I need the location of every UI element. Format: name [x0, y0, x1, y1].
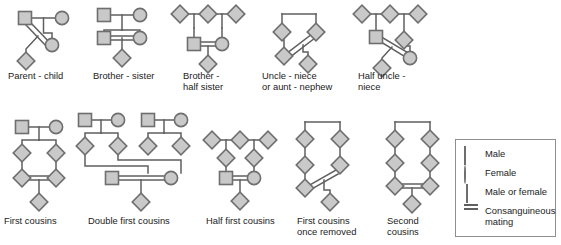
label-first-cousins-once-removed: First cousins once removed [297, 215, 356, 237]
symbol-female [174, 113, 187, 126]
diagram-double-first-cousins [85, 120, 181, 196]
symbol-male [188, 38, 201, 51]
label-half-first-cousins: Half first cousins [206, 215, 275, 226]
symbol-female [133, 31, 146, 44]
symbol-unknown [421, 177, 439, 195]
legend-label: Consanguineous mating [485, 204, 555, 227]
symbol-male [19, 12, 32, 25]
label-brother-half-sister: Brother - half sister [183, 70, 223, 92]
diagram-first-cousins [22, 127, 56, 196]
legend-label: Male or female [485, 185, 547, 197]
symbol-male [220, 172, 233, 185]
symbol-female [55, 11, 68, 24]
symbol-unknown [217, 149, 235, 167]
symbol-unknown [259, 131, 277, 149]
symbol-unknown [296, 130, 314, 148]
symbol-unknown [403, 195, 421, 213]
symbol-unknown [113, 49, 131, 67]
symbol-female [247, 171, 260, 184]
symbol-unknown [76, 137, 94, 155]
symbol-unknown [245, 149, 263, 167]
pedigree-figure: Parent - child Brother - sister Brother … [0, 0, 561, 245]
symbol-unknown [172, 137, 190, 155]
label-double-first-cousins: Double first cousins [88, 215, 170, 226]
symbol-unknown [231, 131, 249, 149]
label-half-uncle-niece: Half uncle - niece [358, 70, 405, 92]
symbol-female [164, 171, 177, 184]
symbol-unknown [296, 156, 314, 174]
symbol-unknown [386, 154, 404, 172]
symbol-unknown [353, 5, 371, 23]
symbol-unknown [321, 193, 339, 211]
symbol-female [133, 8, 146, 21]
legend: Male Female Male or female Consanguineou… [455, 139, 556, 237]
symbol-female [215, 37, 228, 50]
symbol-unknown [273, 23, 291, 41]
legend-item-consanguineous-mating: Consanguineous mating [464, 204, 555, 227]
label-second-cousins: Second cousins [387, 215, 419, 237]
legend-label: Female [485, 166, 516, 178]
legend-label: Male [485, 147, 505, 159]
symbol-female [45, 38, 58, 51]
label-brother-sister: Brother - sister [93, 70, 154, 81]
symbol-male [98, 32, 111, 45]
symbol-unknown [331, 130, 349, 148]
symbol-unknown [132, 193, 150, 211]
symbol-female [403, 51, 416, 64]
symbol-male [142, 114, 155, 127]
symbol-unknown [231, 192, 249, 210]
symbol-unknown [386, 130, 404, 148]
symbol-unknown [203, 131, 221, 149]
symbol-unknown [30, 193, 48, 211]
symbol-unknown [421, 154, 439, 172]
circle-symbol-icon [464, 166, 479, 181]
double-line-symbol-icon [464, 204, 479, 219]
symbol-unknown [171, 5, 189, 23]
symbol-unknown [17, 52, 35, 70]
symbol-unknown [386, 177, 404, 195]
symbol-male [98, 9, 111, 22]
square-symbol-icon [464, 147, 479, 162]
label-uncle-niece: Uncle - niece or aunt - nephew [262, 70, 332, 92]
symbol-unknown [47, 169, 65, 187]
symbol-unknown [307, 23, 325, 41]
symbol-unknown [47, 144, 65, 162]
symbol-unknown [296, 179, 314, 197]
symbol-unknown [13, 144, 31, 162]
symbol-female [49, 120, 62, 133]
symbol-unknown [275, 47, 293, 65]
diamond-symbol-icon [464, 185, 479, 200]
label-first-cousins: First cousins [4, 215, 57, 226]
legend-item-male: Male [464, 147, 505, 162]
symbol-male [106, 172, 119, 185]
symbol-male [370, 31, 383, 44]
symbol-unknown [109, 137, 127, 155]
legend-item-female: Female [464, 166, 516, 181]
symbol-unknown [13, 169, 31, 187]
symbol-unknown [199, 5, 217, 23]
symbol-female [111, 113, 124, 126]
symbol-unknown [409, 5, 427, 23]
symbol-unknown [381, 5, 399, 23]
label-parent-child: Parent - child [8, 70, 63, 81]
symbol-unknown [227, 5, 245, 23]
symbol-unknown [421, 130, 439, 148]
legend-item-male-or-female: Male or female [464, 185, 547, 200]
symbol-male [79, 114, 92, 127]
symbol-male [16, 121, 29, 134]
symbol-unknown [139, 137, 157, 155]
